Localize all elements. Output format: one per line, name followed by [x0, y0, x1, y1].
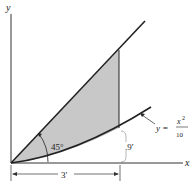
- width-arrow-right: [114, 172, 119, 176]
- curve-label-numerator: x: [176, 117, 181, 126]
- x-axis-label: x: [184, 157, 190, 168]
- curve-label-exponent: 2: [182, 115, 185, 121]
- curve-leader: [142, 115, 155, 124]
- angle-label: 45°: [51, 142, 64, 152]
- width-arrow-left: [12, 172, 17, 176]
- width-dimension-label: 3′: [61, 170, 68, 180]
- area-diagram: y x 45° y = x 2 10 .9′ 3′: [0, 0, 194, 189]
- y-axis-label: y: [5, 2, 11, 13]
- height-dimension-label: .9′: [125, 142, 134, 152]
- curve-label-denominator: 10: [176, 131, 184, 139]
- curve-label-lhs: y =: [155, 123, 168, 133]
